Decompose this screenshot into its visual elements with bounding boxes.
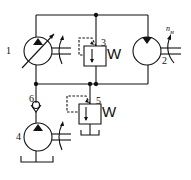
tank-icon	[21, 156, 53, 162]
label-component-6: 6	[29, 94, 34, 104]
flow-direction-triangle-icon	[33, 124, 43, 131]
hydraulic-circuit-diagram: 1 2 3 4 5 6 W W nм	[0, 0, 191, 180]
flow-direction-triangle-icon	[33, 38, 43, 45]
label-component-1: 1	[6, 46, 11, 56]
bottom-line	[36, 65, 148, 84]
pump-1-variable-displacement	[22, 34, 71, 68]
junction-dot	[94, 82, 97, 85]
flow-direction-triangle-icon	[142, 37, 152, 44]
label-component-5: 5	[96, 96, 101, 106]
motor-speed-subscript: м	[170, 29, 174, 35]
rotation-arrow-icon	[59, 38, 62, 64]
junction-dot	[94, 13, 97, 16]
circuit-drawing	[0, 0, 191, 180]
motor-2	[133, 34, 181, 65]
label-component-3: 3	[101, 38, 106, 48]
charge-pump-4	[21, 121, 71, 162]
rotation-arrow-icon	[59, 124, 62, 150]
spring-icon: W	[107, 46, 121, 61]
label-component-2: 2	[162, 56, 167, 66]
motor-speed-label: nм	[166, 25, 174, 35]
spring-icon: W	[102, 104, 116, 119]
rotation-arrow-icon	[168, 37, 174, 63]
label-component-4: 4	[16, 132, 21, 142]
relief-valve-5	[67, 84, 101, 135]
